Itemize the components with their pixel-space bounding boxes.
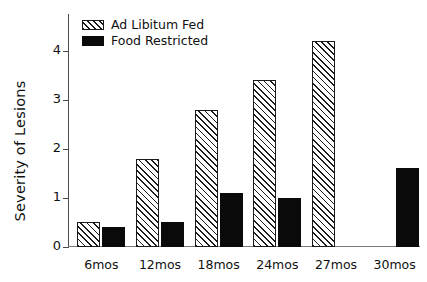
x-axis-tick-label: 6mos bbox=[84, 257, 118, 273]
y-axis-tick-label: 1 bbox=[53, 189, 61, 205]
bar-18mos-ad-libitum-fed bbox=[195, 110, 218, 247]
y-axis-tick-label: 2 bbox=[53, 140, 61, 156]
bar-6mos-ad-libitum-fed bbox=[77, 222, 100, 247]
x-axis-tick-label: 24mos bbox=[256, 257, 298, 273]
y-axis-tick-mark bbox=[63, 100, 69, 101]
legend-item: Food Restricted bbox=[82, 34, 208, 47]
legend-item-label: Ad Libitum Fed bbox=[111, 18, 204, 31]
bar-chart: Severity of Lesions 01234 6mos12mos18mos… bbox=[0, 0, 427, 282]
y-axis-title-label: Severity of Lesions bbox=[12, 81, 28, 222]
bar-27mos-ad-libitum-fed bbox=[312, 41, 335, 247]
solid-swatch bbox=[82, 36, 104, 46]
y-axis-tick-label: 0 bbox=[53, 238, 61, 254]
y-axis-tick-mark bbox=[63, 149, 69, 150]
hatched-swatch bbox=[82, 20, 104, 30]
y-axis-line bbox=[68, 14, 69, 247]
y-axis-tick-mark bbox=[63, 247, 69, 248]
x-axis-tick-label: 27mos bbox=[315, 257, 357, 273]
legend-item: Ad Libitum Fed bbox=[82, 18, 208, 31]
bar-24mos-food-restricted bbox=[278, 198, 301, 247]
x-axis-tick-label: 12mos bbox=[139, 257, 181, 273]
y-axis-tick-mark bbox=[63, 198, 69, 199]
legend-item-label: Food Restricted bbox=[111, 34, 208, 47]
bar-12mos-ad-libitum-fed bbox=[136, 159, 159, 247]
bar-6mos-food-restricted bbox=[102, 227, 125, 247]
y-axis-tick-mark bbox=[63, 51, 69, 52]
bar-12mos-food-restricted bbox=[161, 222, 184, 247]
bar-30mos-food-restricted bbox=[396, 168, 419, 247]
y-axis-tick-label: 4 bbox=[53, 42, 61, 58]
y-axis-tick-label: 3 bbox=[53, 91, 61, 107]
bar-24mos-ad-libitum-fed bbox=[253, 80, 276, 247]
x-axis-tick-label: 30mos bbox=[374, 257, 416, 273]
bar-18mos-food-restricted bbox=[220, 193, 243, 247]
y-axis-title: Severity of Lesions bbox=[0, 10, 40, 282]
plot-area: 01234 6mos12mos18mos24mos27mos30mos bbox=[68, 14, 420, 247]
x-axis-tick-label: 18mos bbox=[198, 257, 240, 273]
chart-legend: Ad Libitum FedFood Restricted bbox=[82, 18, 208, 47]
